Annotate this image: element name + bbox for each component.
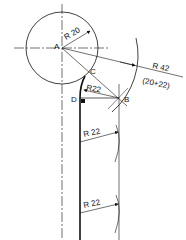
point-c-label: C (90, 67, 96, 76)
r42-sum-label: (20+22) (142, 76, 171, 91)
construction-diagram: A C B D R 20 R 42 (20+22) R22 R 22 R 22 (0, 0, 186, 240)
r42-label: R 42 (152, 61, 171, 73)
tangent-arc-r22 (80, 76, 85, 98)
offset-arc-2 (115, 195, 119, 233)
point-d-marker (81, 99, 85, 103)
offset-arc-1 (115, 125, 119, 162)
r42-arrow (120, 62, 135, 66)
offset-r22-label-2: R 22 (83, 198, 102, 210)
point-a-label: A (54, 42, 60, 51)
tangent-r22-label: R22 (86, 83, 103, 95)
point-b-label: B (124, 95, 129, 104)
r20-label: R 20 (63, 25, 83, 42)
point-d-label: D (71, 95, 77, 104)
diagram-canvas: A C B D R 20 R 42 (20+22) R22 R 22 R 22 (0, 0, 186, 240)
